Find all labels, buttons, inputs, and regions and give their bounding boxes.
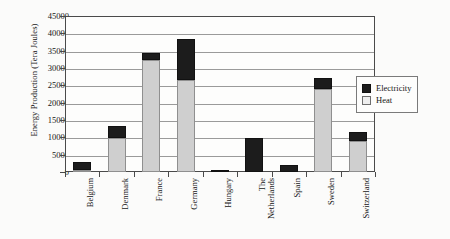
x-axis-category-label-line: France bbox=[154, 178, 164, 201]
x-tick-mark bbox=[306, 172, 307, 177]
x-axis-category-label: Sweden bbox=[327, 178, 336, 239]
x-axis-category-label-line: Hungary bbox=[223, 178, 233, 208]
bar-segment-electricity bbox=[349, 132, 367, 141]
x-tick-mark bbox=[99, 172, 100, 177]
bar-segment-heat bbox=[108, 138, 126, 172]
x-axis-category-label: Germany bbox=[190, 178, 199, 239]
bar-segment-electricity bbox=[177, 39, 195, 80]
x-tick-mark bbox=[375, 172, 376, 177]
bar-segment-heat bbox=[177, 80, 195, 172]
legend-swatch-heat-icon bbox=[362, 96, 371, 105]
x-axis-category-label-line: Spain bbox=[292, 178, 302, 197]
x-axis-category-label: Switzerland bbox=[362, 178, 371, 239]
x-axis-category-label-line: Sweden bbox=[326, 178, 336, 205]
x-axis-category-label: Spain bbox=[293, 178, 302, 239]
bar-segment-heat bbox=[314, 89, 332, 172]
x-axis-category-label-line: Germany bbox=[189, 178, 199, 210]
bar-segment-electricity bbox=[73, 162, 91, 170]
x-tick-mark bbox=[237, 172, 238, 177]
bar-stack bbox=[314, 78, 332, 172]
bars-layer bbox=[65, 16, 375, 172]
bar-group bbox=[314, 16, 332, 172]
bar-segment-heat bbox=[349, 141, 367, 172]
bar-group bbox=[73, 16, 91, 172]
bar-stack bbox=[280, 165, 298, 172]
legend-swatch-electricity-icon bbox=[362, 84, 371, 93]
bar-segment-electricity bbox=[314, 78, 332, 89]
bar-group bbox=[280, 16, 298, 172]
bar-stack bbox=[245, 138, 263, 172]
bar-segment-electricity bbox=[280, 165, 298, 172]
x-tick-mark bbox=[168, 172, 169, 177]
x-tick-mark bbox=[203, 172, 204, 177]
bar-group bbox=[177, 16, 195, 172]
bar-stack bbox=[142, 53, 160, 172]
x-axis-category-label-line: Netherlands bbox=[267, 178, 276, 239]
legend-label-heat: Heat bbox=[376, 95, 392, 105]
bar-stack bbox=[349, 132, 367, 172]
chart-figure: Energy Production (Tera Joules) 05000100… bbox=[0, 0, 450, 239]
bar-stack bbox=[177, 39, 195, 172]
bar-group bbox=[211, 16, 229, 172]
x-axis-category-label-line: Switzerland bbox=[361, 178, 371, 219]
x-tick-mark bbox=[272, 172, 273, 177]
x-axis-category-label: Belgium bbox=[86, 178, 95, 239]
x-axis-labels: BelgiumDenmarkFranceGermanyHungaryTheNet… bbox=[65, 178, 375, 239]
x-axis-category-label-line: Denmark bbox=[120, 178, 130, 210]
x-axis-category-label: Denmark bbox=[121, 178, 130, 239]
bar-stack bbox=[108, 126, 126, 172]
bar-stack bbox=[73, 162, 91, 172]
legend-label-electricity: Electricity bbox=[376, 83, 411, 93]
bar-group bbox=[108, 16, 126, 172]
bar-segment-electricity bbox=[245, 138, 263, 172]
x-axis-category-label: Hungary bbox=[224, 178, 233, 239]
legend-item-electricity: Electricity bbox=[362, 83, 411, 93]
bar-group bbox=[142, 16, 160, 172]
bar-segment-electricity bbox=[142, 53, 160, 60]
legend-item-heat: Heat bbox=[362, 95, 411, 105]
x-tick-mark bbox=[341, 172, 342, 177]
bar-group bbox=[245, 16, 263, 172]
x-axis-category-label: TheNetherlands bbox=[258, 178, 276, 239]
x-axis-ticks bbox=[65, 172, 375, 177]
chart-legend: Electricity Heat bbox=[356, 76, 418, 113]
x-axis-category-label: France bbox=[155, 178, 164, 239]
bar-segment-heat bbox=[142, 60, 160, 172]
x-axis-category-label-line: Belgium bbox=[85, 178, 95, 207]
x-tick-mark bbox=[134, 172, 135, 177]
x-tick-mark bbox=[65, 172, 66, 177]
bar-segment-electricity bbox=[108, 126, 126, 138]
